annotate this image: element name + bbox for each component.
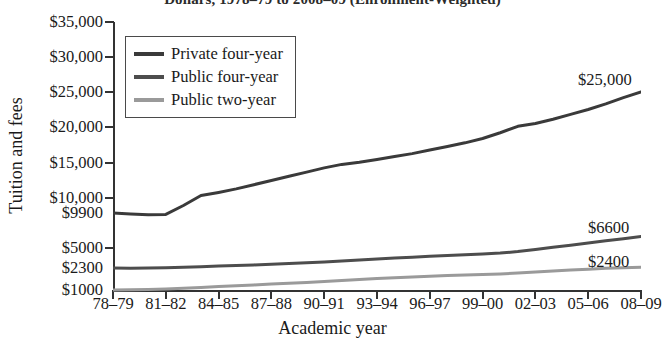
x-tick-label-87–88: 87–88 bbox=[251, 296, 292, 313]
legend-item-label: Public two-year bbox=[171, 90, 276, 110]
y-tick-label-15000: $15,000 bbox=[49, 155, 103, 172]
y-tick-label-5000: $5000 bbox=[62, 240, 103, 257]
series-line-public-two-year bbox=[113, 267, 641, 290]
y-tick-label-25000: $25,000 bbox=[49, 84, 103, 101]
series-line-public-four-year bbox=[113, 237, 641, 269]
x-tick-label-02–03: 02–03 bbox=[515, 296, 556, 313]
legend-item-label: Public four-year bbox=[171, 67, 278, 87]
chart-legend: Private four-yearPublic four-yearPublic … bbox=[125, 36, 296, 118]
legend-swatch-icon bbox=[134, 52, 164, 56]
series-end-label-public-four-year: $6600 bbox=[588, 218, 629, 238]
legend-swatch-icon bbox=[134, 75, 164, 79]
x-tick-label-90–91: 90–91 bbox=[304, 296, 345, 313]
series-end-label-public-two-year: $2400 bbox=[588, 252, 629, 272]
y-tick-label-20000: $20,000 bbox=[49, 119, 103, 136]
legend-item-private-four-year[interactable]: Private four-year bbox=[134, 42, 283, 65]
legend-item-public-two-year[interactable]: Public two-year bbox=[134, 88, 283, 111]
x-tick-label-78–79: 78–79 bbox=[92, 296, 133, 313]
legend-swatch-icon bbox=[134, 98, 164, 102]
x-tick-label-05–06: 05–06 bbox=[568, 296, 609, 313]
x-tick-label-81–82: 81–82 bbox=[145, 296, 186, 313]
y-tick-label-2300: $2300 bbox=[62, 260, 103, 277]
x-tick-label-99–00: 99–00 bbox=[462, 296, 503, 313]
x-tick-label-84–85: 84–85 bbox=[198, 296, 239, 313]
series-end-label-private-four-year: $25,000 bbox=[578, 70, 632, 90]
y-axis-labels: $35,000$30,000$25,000$20,000$15,000$10,0… bbox=[0, 0, 103, 348]
x-tick-label-93–94: 93–94 bbox=[356, 296, 397, 313]
y-tick-label-35000: $35,000 bbox=[49, 14, 103, 31]
legend-item-public-four-year[interactable]: Public four-year bbox=[134, 65, 283, 88]
y-tick-label-9900: $9900 bbox=[62, 205, 103, 222]
x-tick-label-08–09: 08–09 bbox=[620, 296, 661, 313]
y-tick-label-30000: $30,000 bbox=[49, 49, 103, 66]
legend-item-label: Private four-year bbox=[171, 44, 283, 64]
x-tick-label-96–97: 96–97 bbox=[409, 296, 450, 313]
